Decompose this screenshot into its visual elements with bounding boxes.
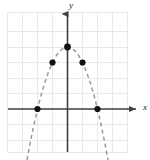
- graph-figure: y x: [0, 0, 150, 160]
- y-axis-label: y: [69, 1, 73, 10]
- parabola-plot: [0, 0, 150, 160]
- point-vertex: [64, 44, 71, 51]
- point-point-right: [79, 59, 85, 65]
- point-x-intercept-left: [34, 106, 40, 112]
- axes: [8, 14, 136, 152]
- point-point-left: [49, 59, 55, 65]
- point-x-intercept-right: [94, 106, 100, 112]
- x-axis-label: x: [143, 103, 147, 112]
